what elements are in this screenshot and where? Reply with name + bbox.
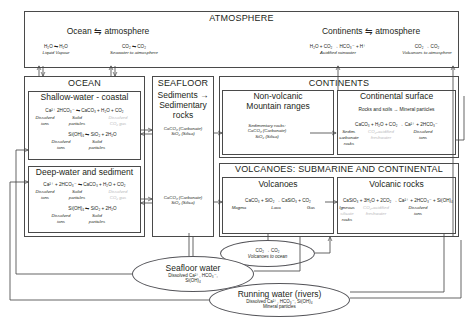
diagram-canvas: ATMOSPHERE Ocean ⇋ atmosphere H₂O ⇋ H₂O … — [0, 0, 467, 320]
line-running-water-from-volcanic-rocks — [350, 234, 444, 292]
line-running-water-to-ocean-deep — [10, 182, 209, 300]
line-ellipse-to-volcano-right — [315, 237, 330, 253]
line-seafloor-water-to-ocean-shallow — [16, 150, 132, 274]
connector-layer — [0, 0, 467, 320]
line-continental-surface-right-return — [456, 96, 464, 140]
line-seafloor-water-right — [254, 237, 300, 271]
